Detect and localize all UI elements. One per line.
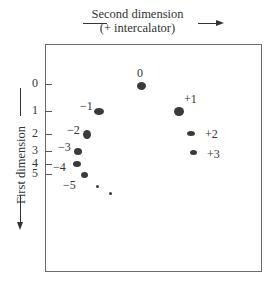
gel-spot — [174, 107, 184, 116]
spot-label: −1 — [80, 99, 93, 114]
spot-label: +2 — [205, 127, 218, 142]
gel-spot — [187, 131, 195, 136]
gel-spot — [83, 130, 91, 139]
second-dimension-line-right — [198, 23, 218, 24]
gel-spot — [73, 161, 81, 167]
gel-spot — [137, 82, 146, 90]
first-dimension-title: First dimension — [13, 95, 29, 235]
intercalator-label: (+ intercalator) — [0, 21, 275, 35]
gel-spot — [81, 172, 88, 178]
gel-spot — [74, 148, 82, 155]
spot-label: −3 — [58, 140, 71, 155]
gel-spot — [96, 185, 99, 188]
tick-mark — [45, 111, 52, 112]
second-dimension-label: Second dimension — [91, 7, 183, 21]
tick-mark — [45, 151, 52, 152]
spot-label: −2 — [67, 123, 80, 138]
first-dimension-label: First dimension — [14, 126, 29, 204]
tick-label: 0 — [30, 76, 40, 91]
tick-mark — [45, 164, 52, 165]
tick-label: 5 — [30, 166, 40, 181]
spot-label: −5 — [63, 178, 76, 193]
arrow-right-icon — [216, 20, 224, 26]
spot-label: −4 — [53, 160, 66, 175]
tick-label: 2 — [30, 126, 40, 141]
tick-mark — [45, 84, 52, 85]
second-dimension-title: Second dimension (+ intercalator) — [0, 7, 275, 35]
spot-label: +1 — [184, 92, 197, 107]
gel-spot — [190, 150, 197, 155]
first-dimension-line-bottom — [20, 195, 21, 223]
tick-label: 1 — [30, 103, 40, 118]
tick-mark — [45, 174, 52, 175]
second-dimension-line — [83, 23, 107, 24]
tick-mark — [45, 134, 52, 135]
arrow-down-icon — [17, 222, 23, 230]
spot-label: 0 — [137, 66, 143, 81]
gel-spot — [94, 108, 104, 115]
gel-spot — [109, 192, 112, 195]
gel-frame — [45, 44, 262, 272]
spot-label: +3 — [207, 147, 220, 162]
